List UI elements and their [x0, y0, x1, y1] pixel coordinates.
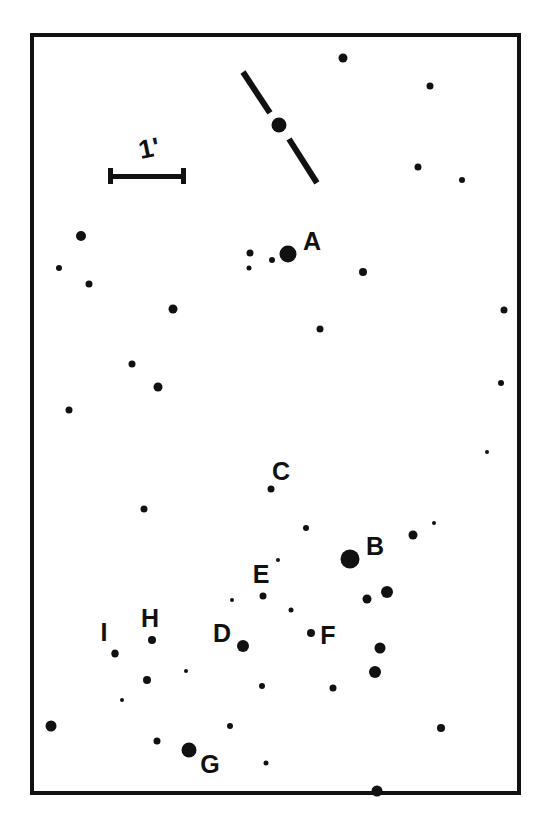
field-star-35: [227, 723, 233, 729]
field-star-2: [415, 164, 422, 171]
scale-bar-line: [108, 174, 186, 179]
field-star-25: [230, 598, 234, 602]
field-star-17: [66, 407, 73, 414]
star-label-G: G: [200, 752, 219, 777]
field-star-23: [363, 595, 372, 604]
field-star-39: [120, 698, 124, 702]
field-star-36: [437, 724, 445, 732]
star-label-I: I: [101, 620, 108, 645]
comparison-star-B: [341, 550, 360, 569]
field-star-6: [269, 257, 275, 263]
field-star-16: [498, 380, 504, 386]
star-label-D: D: [213, 621, 231, 646]
comparison-star-I: [112, 651, 119, 658]
field-star-32: [369, 666, 381, 678]
field-star-8: [86, 281, 93, 288]
field-star-27: [375, 643, 386, 654]
star-label-B: B: [366, 534, 384, 559]
comparison-star-D: [237, 640, 249, 652]
star-label-A: A: [303, 229, 321, 254]
field-star-19: [303, 525, 309, 531]
finder-chart: 1' ABCDEFGHI: [0, 0, 551, 823]
field-star-30: [259, 683, 265, 689]
scale-bar-left-cap: [108, 168, 113, 184]
field-star-26: [289, 608, 294, 613]
field-star-1: [427, 83, 434, 90]
field-star-33: [46, 721, 57, 732]
comparison-star-F: [307, 629, 315, 637]
field-star-24: [276, 558, 280, 562]
field-border: [30, 33, 521, 795]
comparison-star-A: [280, 246, 297, 263]
field-star-13: [317, 326, 324, 333]
field-star-20: [409, 531, 418, 540]
target-star: [272, 118, 287, 133]
field-star-40: [184, 669, 188, 673]
field-star-0: [339, 54, 348, 63]
field-star-41: [485, 450, 489, 454]
field-star-7: [56, 265, 62, 271]
star-label-F: F: [320, 623, 335, 648]
field-star-4: [76, 231, 86, 241]
field-star-3: [459, 177, 465, 183]
field-star-31: [330, 685, 337, 692]
field-star-21: [432, 521, 436, 525]
star-label-H: H: [141, 606, 159, 631]
field-star-15: [154, 383, 163, 392]
star-label-C: C: [272, 459, 290, 484]
field-star-29: [143, 676, 151, 684]
field-star-18: [141, 506, 148, 513]
comparison-star-C: [268, 486, 275, 493]
comparison-star-H: [148, 636, 156, 644]
field-star-11: [501, 307, 508, 314]
field-star-34: [154, 738, 161, 745]
field-star-38: [372, 786, 383, 797]
field-star-9: [247, 266, 252, 271]
field-star-12: [169, 305, 178, 314]
star-label-E: E: [253, 562, 270, 587]
scale-bar-right-cap: [181, 168, 186, 184]
field-star-37: [264, 761, 269, 766]
comparison-star-G: [182, 743, 197, 758]
field-star-22: [381, 586, 393, 598]
field-star-14: [129, 361, 136, 368]
comparison-star-E: [260, 593, 267, 600]
field-star-5: [247, 250, 254, 257]
field-star-10: [359, 268, 367, 276]
